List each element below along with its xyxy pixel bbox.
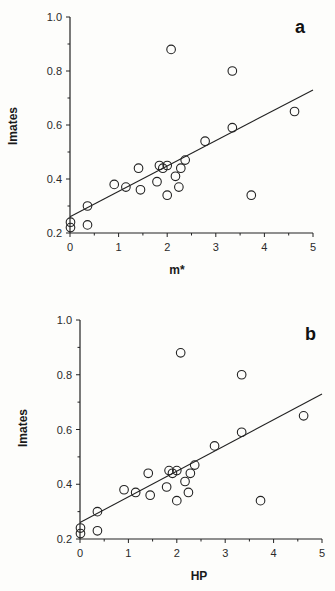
chart-panel-a: 0123450.20.40.60.81.0 a m* Imates <box>6 11 316 277</box>
data-point <box>162 483 171 492</box>
data-point <box>144 469 153 478</box>
y-tick-label: 1.0 <box>47 11 62 23</box>
y-tick-label: 0.2 <box>47 227 62 239</box>
data-point <box>237 428 246 437</box>
y-tick-label: 0.6 <box>47 119 62 131</box>
x-tick-label: 4 <box>261 241 267 253</box>
data-point <box>256 496 265 505</box>
y-tick-label: 0.8 <box>57 369 72 381</box>
data-point <box>171 172 180 181</box>
data-point <box>237 370 246 379</box>
figure: 0123450.20.40.60.81.0 a m* Imates 012345… <box>0 0 335 591</box>
data-point <box>136 186 145 195</box>
x-axis-title-a: m* <box>169 263 185 277</box>
data-point <box>290 107 299 116</box>
data-point <box>83 221 92 230</box>
data-point <box>181 477 190 486</box>
regression-line <box>70 90 313 217</box>
x-tick-label: 4 <box>271 547 277 559</box>
panel-label-b: b <box>305 324 316 344</box>
data-point <box>153 177 162 186</box>
data-point <box>210 442 219 451</box>
y-tick-label: 0.8 <box>47 65 62 77</box>
data-point <box>120 485 129 494</box>
data-point <box>173 496 182 505</box>
regression-line <box>80 394 322 523</box>
x-tick-label: 5 <box>319 547 325 559</box>
data-point <box>175 183 184 192</box>
data-point <box>167 45 176 54</box>
y-axis-title-b: Imates <box>16 409 30 447</box>
x-axis-title-b: HP <box>191 569 208 583</box>
data-point <box>134 164 143 173</box>
x-tick-label: 2 <box>164 241 170 253</box>
y-tick-label: 1.0 <box>57 314 72 326</box>
data-point <box>186 469 195 478</box>
x-tick-label: 3 <box>213 241 219 253</box>
y-axis-title-a: Imates <box>6 107 20 145</box>
panel-label-a: a <box>295 17 306 37</box>
chart-panel-b: 0123450.20.40.60.81.0 b HP Imates <box>16 314 325 583</box>
data-point <box>93 526 102 535</box>
data-point <box>201 137 210 146</box>
x-tick-label: 2 <box>174 547 180 559</box>
y-tick-label: 0.4 <box>57 478 72 490</box>
data-point <box>247 191 256 200</box>
data-point <box>177 164 186 173</box>
data-point <box>146 491 155 500</box>
y-tick-label: 0.2 <box>57 533 72 545</box>
y-tick-label: 0.6 <box>57 424 72 436</box>
x-tick-label: 0 <box>67 241 73 253</box>
plot-area-a: 0123450.20.40.60.81.0 <box>47 11 316 253</box>
x-tick-label: 1 <box>116 241 122 253</box>
data-point <box>110 180 119 189</box>
x-tick-label: 3 <box>222 547 228 559</box>
data-point <box>163 191 172 200</box>
data-point <box>228 123 237 132</box>
data-point <box>184 488 193 497</box>
data-point <box>176 349 185 358</box>
x-tick-label: 0 <box>77 547 83 559</box>
x-tick-label: 5 <box>310 241 316 253</box>
y-tick-label: 0.4 <box>47 173 62 185</box>
data-point <box>299 412 308 421</box>
plot-area-b: 0123450.20.40.60.81.0 <box>57 314 325 559</box>
data-point <box>228 67 237 76</box>
x-tick-label: 1 <box>125 547 131 559</box>
